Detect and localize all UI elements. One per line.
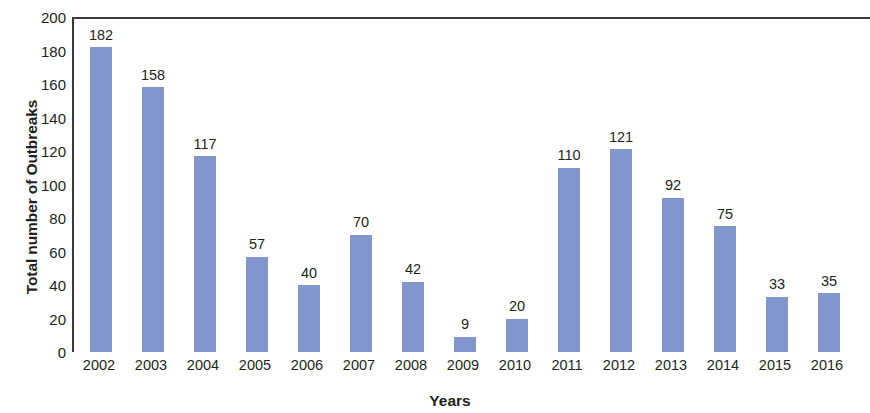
y-axis-tick-label: 120 xyxy=(20,144,66,159)
bar-value-label: 42 xyxy=(405,262,421,277)
x-axis-tick-label: 2006 xyxy=(291,357,323,373)
bar-slot: 20 xyxy=(491,19,543,352)
bar-value-label: 117 xyxy=(193,137,216,152)
y-axis-tick-label: 0 xyxy=(20,345,66,360)
bar xyxy=(558,168,580,352)
bar-value-label: 158 xyxy=(141,68,165,83)
y-axis-tick-label: 200 xyxy=(20,10,66,25)
plot-area: 1821581175740704292011012192753335 xyxy=(72,17,870,352)
bar xyxy=(298,285,320,352)
bar-slot: 33 xyxy=(751,19,803,352)
bar xyxy=(506,319,528,353)
x-axis-tick-label: 2007 xyxy=(343,357,375,373)
bar xyxy=(714,226,736,352)
bar-value-label: 110 xyxy=(557,148,580,163)
bar-value-label: 35 xyxy=(821,274,837,289)
bar-value-label: 92 xyxy=(665,178,681,193)
bar xyxy=(194,156,216,352)
y-axis-tick-labels: 020406080100120140160180200 xyxy=(20,0,66,413)
bar xyxy=(818,293,840,352)
bar-slot: 9 xyxy=(439,19,491,352)
bar-slot: 75 xyxy=(699,19,751,352)
y-axis-tick-label: 100 xyxy=(20,177,66,192)
x-axis-tick-label: 2015 xyxy=(759,357,791,373)
bar-value-label: 182 xyxy=(89,28,113,43)
bar-slot: 57 xyxy=(231,19,283,352)
bar-slot: 117 xyxy=(179,19,231,352)
bar-value-label: 121 xyxy=(609,130,633,145)
x-axis-tick-label: 2004 xyxy=(187,357,219,373)
y-axis-tick-label: 40 xyxy=(20,278,66,293)
bar-slot: 110 xyxy=(543,19,595,352)
bar xyxy=(610,149,632,352)
bar xyxy=(350,235,372,352)
x-axis-tick-label: 2014 xyxy=(707,357,739,373)
bar-value-label: 75 xyxy=(717,207,733,222)
bar-value-label: 70 xyxy=(353,215,369,230)
bar-slot: 40 xyxy=(283,19,335,352)
y-axis-tick-label: 180 xyxy=(20,43,66,58)
x-axis-tick-label: 2013 xyxy=(655,357,687,373)
bar-value-label: 9 xyxy=(461,317,469,332)
x-axis-tick-label: 2008 xyxy=(395,357,427,373)
bar xyxy=(90,47,112,352)
x-axis-tick-label: 2003 xyxy=(135,357,167,373)
bar-slot: 35 xyxy=(803,19,855,352)
bar-slot: 70 xyxy=(335,19,387,352)
bar-value-label: 20 xyxy=(509,299,525,314)
bar-slot: 42 xyxy=(387,19,439,352)
bar xyxy=(246,257,268,352)
x-axis-tick-label: 2011 xyxy=(551,357,582,373)
y-axis-tick-label: 140 xyxy=(20,110,66,125)
bar-value-label: 40 xyxy=(301,266,317,281)
x-axis-tick-label: 2016 xyxy=(811,357,843,373)
y-axis-tick-label: 160 xyxy=(20,77,66,92)
x-axis-tick-label: 2002 xyxy=(83,357,115,373)
x-axis-tick-label: 2009 xyxy=(447,357,479,373)
y-axis-tick-label: 80 xyxy=(20,211,66,226)
bar-value-label: 57 xyxy=(249,237,265,252)
bar xyxy=(662,198,684,352)
bar-chart: Total number of Outbreaks 02040608010012… xyxy=(0,0,870,413)
bar-slot: 121 xyxy=(595,19,647,352)
bar-slot: 92 xyxy=(647,19,699,352)
x-axis-tick-labels: 2002200320042005200620072008200920102011… xyxy=(72,357,870,381)
bar-series: 1821581175740704292011012192753335 xyxy=(74,19,870,352)
bar xyxy=(454,337,476,352)
y-axis-tick-label: 20 xyxy=(20,311,66,326)
bar-slot: 182 xyxy=(75,19,127,352)
bar xyxy=(766,297,788,352)
bar-slot: 158 xyxy=(127,19,179,352)
bar xyxy=(402,282,424,352)
bar xyxy=(142,87,164,352)
bar-value-label: 33 xyxy=(769,277,785,292)
x-axis-tick-label: 2005 xyxy=(239,357,271,373)
x-axis-tick-label: 2012 xyxy=(603,357,635,373)
y-axis-tick-label: 60 xyxy=(20,244,66,259)
x-axis-title: Years xyxy=(0,392,870,410)
x-axis-tick-label: 2010 xyxy=(499,357,531,373)
